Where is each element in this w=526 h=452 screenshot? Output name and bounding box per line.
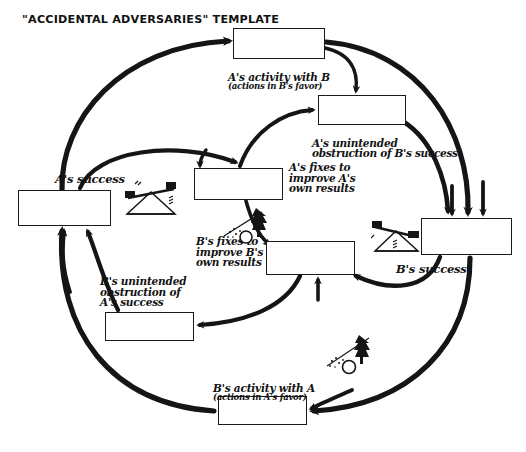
seesaw-balance-icon — [122, 178, 180, 224]
seesaw-balance-icon — [371, 218, 423, 262]
snowball-rolling-icon — [325, 334, 380, 386]
node-box-a-fixes[interactable] — [194, 168, 283, 200]
node-label-b-obstruction: B's unintended obstruction of A's succes… — [100, 276, 186, 308]
node-label-a-fixes: A's fixes to improve A's own results — [289, 162, 356, 194]
node-label-b-activity: B's activity with A (actions in A's favo… — [213, 372, 315, 413]
node-label-b-success: B's success — [396, 264, 467, 276]
node-box-a-success[interactable] — [18, 190, 111, 226]
snowball-rolling-icon — [222, 206, 274, 256]
diagram-canvas: "ACCIDENTAL ADVERSARIES" TEMPLATE — [0, 0, 526, 452]
node-label-a-activity: A's activity with B (actions in B's favo… — [228, 61, 330, 102]
node-box-b-obstruction[interactable] — [105, 312, 194, 341]
node-box-a-obstruction[interactable] — [318, 95, 406, 125]
node-label-a-activity-sub: (actions in B's favor) — [228, 82, 330, 91]
node-label-a-obstruction-sub: obstruction of B's success — [312, 148, 458, 159]
link-b-fixes-to-b-obstruction — [200, 276, 300, 325]
node-box-a-activity[interactable] — [233, 28, 325, 59]
node-label-a-success: A's success — [55, 174, 125, 186]
link-a-fixes-to-a-obstruction — [240, 110, 312, 166]
node-box-b-success[interactable] — [421, 218, 512, 255]
node-box-b-fixes[interactable] — [266, 241, 355, 275]
node-label-b-activity-sub: (actions in A's favor) — [213, 393, 315, 402]
